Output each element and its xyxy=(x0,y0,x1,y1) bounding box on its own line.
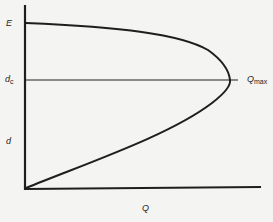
label-e: E xyxy=(6,19,12,28)
diagram-figure: E dc d Qmax Q xyxy=(0,0,273,222)
diagram-svg xyxy=(0,0,273,222)
label-d-text: d xyxy=(6,136,11,146)
label-dc: dc xyxy=(5,75,14,85)
energy-discharge-curve xyxy=(26,23,230,188)
label-qmax-sub: max xyxy=(254,78,267,85)
x-axis xyxy=(24,187,261,189)
label-qmax-main: Q xyxy=(247,74,254,84)
label-qmax: Qmax xyxy=(247,75,267,85)
label-d: d xyxy=(6,137,11,146)
label-dc-sub: c xyxy=(10,78,14,85)
label-q-text: Q xyxy=(142,203,149,213)
label-e-text: E xyxy=(6,18,12,28)
label-q: Q xyxy=(142,204,149,213)
